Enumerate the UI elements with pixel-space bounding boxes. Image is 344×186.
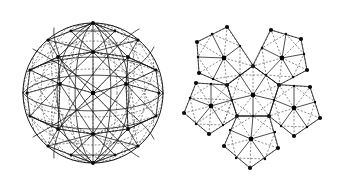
figure-svg	[0, 0, 344, 186]
figure-panel	[0, 0, 344, 186]
